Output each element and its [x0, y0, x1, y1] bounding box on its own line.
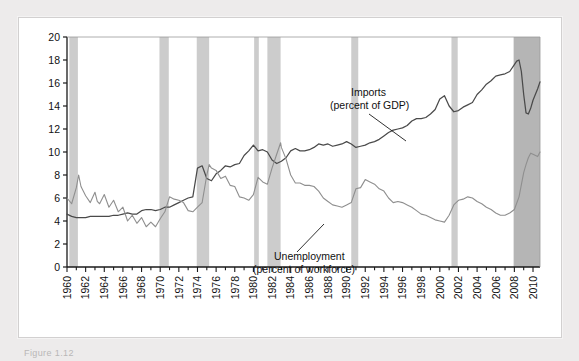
recession-band-7: [514, 37, 540, 267]
imports-leader-line: [369, 114, 406, 141]
x-tick-label: 1988: [322, 276, 334, 300]
imports-annotation-line2: (percent of GDP): [330, 99, 409, 111]
x-tick-label: 1976: [210, 276, 222, 300]
figure-page: 0246810121416182019601962196419661968197…: [0, 0, 579, 361]
x-tick-label: 1998: [415, 276, 427, 300]
x-tick-label: 1984: [284, 276, 296, 300]
y-tick-label: 6: [54, 192, 60, 204]
recession-band-6: [451, 37, 457, 267]
unemployment-series-line: [67, 143, 540, 227]
x-tick-label: 1966: [117, 276, 129, 300]
unemployment-leader-line: [297, 224, 324, 252]
imports-series-line: [67, 60, 540, 218]
x-tick-label: 2008: [508, 276, 520, 300]
imports-annotation-line1: Imports: [351, 86, 386, 98]
x-tick-label: 1960: [61, 276, 73, 300]
recession-band-3: [254, 37, 259, 267]
x-tick-label: 1980: [247, 276, 259, 300]
x-tick-label: 1970: [154, 276, 166, 300]
recession-band-5: [351, 37, 358, 267]
x-tick-label: 1964: [98, 276, 110, 300]
y-tick-label: 14: [48, 100, 60, 112]
y-tick-label: 16: [48, 77, 60, 89]
x-tick-label: 1986: [303, 276, 315, 300]
y-tick-label: 2: [54, 238, 60, 250]
unemployment-annotation-line2: (percent of workforce): [253, 263, 355, 275]
y-tick-label: 0: [54, 261, 60, 273]
recession-bands: [69, 37, 540, 267]
x-tick-label: 1996: [396, 276, 408, 300]
y-tick-label: 18: [48, 54, 60, 66]
imports-annotation: Imports(percent of GDP): [330, 86, 409, 141]
x-tick-label: 1974: [191, 276, 203, 300]
recession-band-4: [267, 37, 280, 267]
x-tick-label: 2006: [490, 276, 502, 300]
y-tick-label: 4: [54, 215, 60, 227]
y-tick-label: 8: [54, 169, 60, 181]
x-tick-label: 1990: [340, 276, 352, 300]
x-tick-label: 1962: [79, 276, 91, 300]
x-tick-label: 1972: [173, 276, 185, 300]
chart-canvas: 0246810121416182019601962196419661968197…: [29, 28, 550, 325]
y-tick-label: 10: [48, 146, 60, 158]
x-tick-label: 1992: [359, 276, 371, 300]
recession-band-1: [159, 37, 168, 267]
x-tick-label: 1994: [378, 276, 390, 300]
y-axis-ticks: 02468101214161820: [48, 31, 67, 273]
unemployment-annotation-line1: Unemployment: [274, 250, 345, 262]
plot-frame: 0246810121416182019601962196419661968197…: [29, 28, 550, 325]
x-tick-label: 2000: [434, 276, 446, 300]
x-tick-label: 2002: [452, 276, 464, 300]
x-tick-label: 1968: [135, 276, 147, 300]
recession-band-2: [197, 37, 209, 267]
figure-panel: 0246810121416182019601962196419661968197…: [18, 17, 562, 338]
y-tick-label: 20: [48, 31, 60, 43]
recession-band-0: [69, 37, 78, 267]
figure-caption: Figure 1.12: [24, 348, 74, 358]
y-tick-label: 12: [48, 123, 60, 135]
x-tick-label: 1982: [266, 276, 278, 300]
x-tick-label: 1978: [229, 276, 241, 300]
x-tick-label: 2004: [471, 276, 483, 300]
x-tick-label: 2010: [527, 276, 539, 300]
